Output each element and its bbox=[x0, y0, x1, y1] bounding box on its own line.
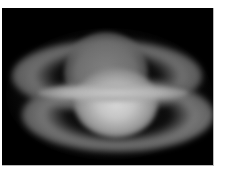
saturn-photo bbox=[2, 8, 214, 166]
halo bbox=[6, 28, 212, 160]
